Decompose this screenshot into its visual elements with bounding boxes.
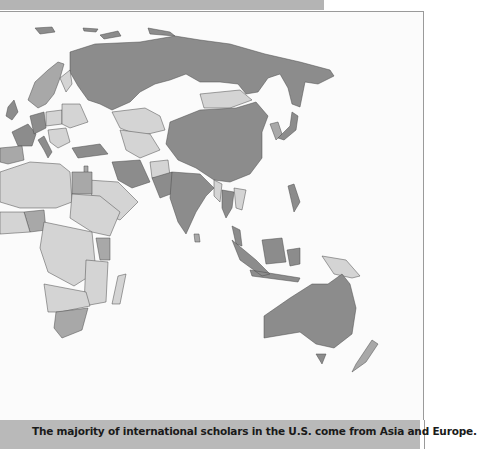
country-india [170, 172, 214, 234]
country-japan [278, 112, 298, 140]
map-frame [0, 11, 424, 420]
country-thailand [222, 190, 234, 218]
top-page-bar [0, 0, 324, 10]
country-norway-sweden [28, 62, 64, 108]
country-myanmar [214, 180, 222, 202]
country-central-asia [120, 130, 160, 158]
country-indonesia [232, 238, 300, 282]
country-sri-lanka [194, 234, 200, 242]
country-poland [46, 110, 62, 126]
country-new-zealand [352, 340, 378, 372]
country-ukraine-belarus [62, 104, 88, 128]
country-spain [0, 146, 24, 164]
country-egypt [72, 172, 92, 194]
caption-band: The majority of international scholars i… [0, 420, 420, 449]
country-kazakhstan [112, 108, 165, 136]
country-australia [264, 274, 356, 348]
country-balkans [48, 128, 70, 148]
country-turkey [72, 144, 108, 158]
country-vietnam [234, 188, 246, 210]
country-north-africa [0, 162, 72, 208]
country-uk [6, 100, 18, 120]
world-map [0, 12, 423, 420]
map-caption: The majority of international scholars i… [32, 425, 477, 437]
country-southern-africa [44, 284, 90, 312]
country-china [166, 102, 268, 182]
arctic-islands [35, 27, 175, 39]
country-tasmania [316, 354, 326, 364]
country-madagascar [112, 274, 126, 304]
country-finland [60, 70, 72, 92]
country-south-africa [54, 308, 88, 338]
country-philippines [288, 184, 300, 212]
country-kenya [96, 238, 110, 260]
